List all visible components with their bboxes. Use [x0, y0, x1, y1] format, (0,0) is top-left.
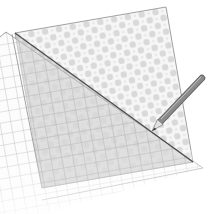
illustration-canvas: Folded patterned paper with grid sheet a… — [0, 0, 213, 214]
folded-paper-illustration — [0, 0, 213, 214]
